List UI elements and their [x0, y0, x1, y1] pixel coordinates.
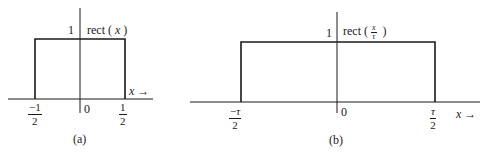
denominator: 2	[232, 119, 238, 131]
panel-b-left-tick-label: −τ 2	[229, 106, 241, 131]
function-name: rect	[343, 24, 361, 38]
panel-b-axis-label: x →	[456, 108, 476, 120]
panel-b-caption: (b)	[329, 134, 343, 146]
function-name: rect	[87, 23, 105, 37]
panel-b-right-tick-label: τ 2	[430, 106, 436, 131]
close-paren: )	[383, 24, 387, 38]
function-arg: x	[115, 23, 120, 37]
arrow-right-icon: →	[464, 107, 476, 121]
numerator: 1	[119, 102, 127, 115]
open-paren: (	[364, 24, 368, 38]
denominator: τ	[372, 33, 375, 41]
x-label: x	[456, 107, 461, 121]
panel-b-function-label: rect ( x τ )	[343, 24, 387, 41]
panel-b-rect-pulse	[241, 42, 435, 102]
numerator: τ	[430, 106, 436, 119]
panel-a-right-tick-label: 1 2	[119, 102, 127, 127]
panel-b-graphics	[190, 12, 480, 113]
denominator: 2	[32, 115, 38, 127]
x-label: x	[129, 84, 134, 98]
arrow-right-icon: →	[137, 84, 149, 98]
open-paren: (	[108, 23, 112, 37]
denominator: 2	[120, 115, 126, 127]
panel-a-caption: (a)	[73, 133, 86, 145]
panel-a-axis-label: x →	[129, 85, 149, 97]
panel-b-origin-label: 0	[341, 106, 347, 118]
denominator: 2	[430, 119, 436, 131]
function-arg-fraction: x τ	[371, 24, 377, 41]
numerator: 1	[35, 101, 41, 113]
close-paren: )	[123, 23, 127, 37]
panel-b-height-label: 1	[326, 27, 332, 39]
panel-a-left-tick-label: −1 2	[28, 102, 42, 127]
panel-a-height-label: 1	[68, 24, 74, 36]
panel-a-function-label: rect ( x )	[87, 24, 127, 36]
panel-a-origin-label: 0	[84, 103, 90, 115]
numerator: τ	[236, 105, 240, 117]
